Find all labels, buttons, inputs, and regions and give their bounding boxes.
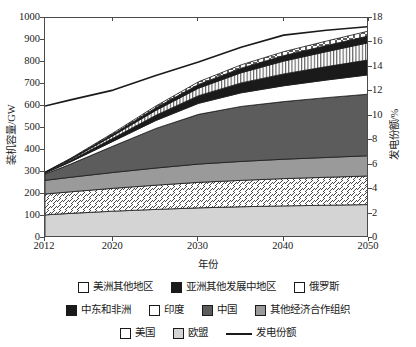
legend-item-俄罗斯[interactable]: 俄罗斯	[294, 282, 339, 293]
legend-swatch-icon	[78, 282, 89, 293]
legend-item-美国[interactable]: 美国	[120, 328, 155, 339]
legend-item-label: 印度	[164, 305, 184, 316]
y-axis-right-tickmark	[368, 90, 372, 91]
legend-item-亚洲其他发展中地区[interactable]: 亚洲其他发展中地区	[171, 282, 276, 293]
y-axis-left-tick-label: 1000	[19, 12, 40, 23]
y-axis-left-tickmark	[40, 193, 44, 194]
x-axis-title: 年份	[0, 256, 416, 271]
legend-item-label: 欧盟	[188, 328, 208, 339]
y-axis-left-tickmark	[40, 215, 44, 216]
legend-swatch-icon	[202, 305, 213, 316]
legend-line-swatch-icon	[226, 328, 252, 339]
legend-item-印度[interactable]: 印度	[149, 305, 184, 316]
x-axis-tickmark	[283, 17, 284, 21]
y-axis-right-tickmark	[368, 164, 372, 165]
chart-figure: 01002003004005006007008009001000 0246810…	[0, 0, 416, 347]
y-axis-right-tickmark	[368, 188, 372, 189]
legend-item-label: 其他经济合作组织	[270, 305, 350, 316]
legend-item-label: 发电份额	[256, 328, 296, 339]
legend-row: 中东和非洲印度中国其他经济合作组织	[0, 299, 416, 322]
y-axis-right-tick-label: 14	[372, 61, 383, 72]
y-axis-left-tick-label: 700	[24, 78, 40, 89]
legend-swatch-icon	[66, 305, 77, 316]
y-axis-right-tickmark	[368, 41, 372, 42]
y-axis-right-tick-label: 2	[372, 207, 377, 218]
legend-item-label: 美洲其他地区	[93, 282, 153, 293]
chart-legend: 美洲其他地区亚洲其他发展中地区俄罗斯中东和非洲印度中国其他经济合作组织美国欧盟发…	[0, 276, 416, 347]
legend-swatch-icon	[171, 282, 182, 293]
legend-item-美洲其他地区[interactable]: 美洲其他地区	[78, 282, 153, 293]
legend-row: 美国欧盟发电份额	[0, 322, 416, 345]
y-axis-left-tickmark	[40, 39, 44, 40]
y-axis-right-title: 发电份额/%	[386, 87, 401, 183]
legend-item-label: 亚洲其他发展中地区	[186, 282, 276, 293]
legend-swatch-icon	[149, 305, 160, 316]
x-axis-tickmark	[197, 237, 198, 241]
legend-swatch-icon	[294, 282, 305, 293]
y-axis-left-tickmark	[40, 61, 44, 62]
y-axis-left-tick-label: 300	[24, 166, 40, 177]
y-axis-left-tick-label: 400	[24, 144, 40, 155]
y-axis-right-tick-label: 18	[372, 12, 383, 23]
y-axis-right-tickmark	[368, 139, 372, 140]
legend-item-欧盟[interactable]: 欧盟	[173, 328, 208, 339]
stacked-area-svg	[45, 18, 368, 237]
legend-swatch-icon	[173, 328, 184, 339]
y-axis-left-tick-label: 100	[24, 210, 40, 221]
x-axis-tick-label: 2030	[187, 241, 208, 252]
y-axis-right-tick-label: 16	[372, 36, 383, 47]
y-axis-left-tick-label: 800	[24, 56, 40, 67]
legend-item-发电份额[interactable]: 发电份额	[226, 328, 296, 339]
y-axis-left-tick-label: 900	[24, 34, 40, 45]
legend-item-label: 中东和非洲	[81, 305, 131, 316]
y-axis-right-tickmark	[368, 66, 372, 67]
legend-row: 美洲其他地区亚洲其他发展中地区俄罗斯	[0, 276, 416, 299]
x-axis-tickmark	[44, 237, 45, 241]
x-axis-tickmark	[283, 237, 284, 241]
y-axis-left-title: 装机容量/GW	[3, 87, 18, 183]
x-axis-tickmark	[44, 17, 45, 21]
legend-item-label: 俄罗斯	[309, 282, 339, 293]
x-axis-tickmark	[112, 17, 113, 21]
x-axis-tick-label: 2040	[272, 241, 293, 252]
legend-item-label: 美国	[135, 328, 155, 339]
y-axis-right-tickmark	[368, 213, 372, 214]
plot-area	[44, 17, 368, 237]
legend-swatch-icon	[255, 305, 266, 316]
y-axis-left-tickmark	[40, 105, 44, 106]
legend-swatch-icon	[120, 328, 131, 339]
x-axis-tickmark	[368, 17, 369, 21]
x-axis-tick-label: 2012	[34, 241, 55, 252]
y-axis-left-tick-label: 500	[24, 122, 40, 133]
x-axis-tickmark	[368, 237, 369, 241]
legend-item-中国[interactable]: 中国	[202, 305, 237, 316]
y-axis-right-tick-label: 6	[372, 158, 377, 169]
y-axis-left-tickmark	[40, 171, 44, 172]
y-axis-right-tick-label: 4	[372, 183, 377, 194]
x-axis-tickmark	[112, 237, 113, 241]
legend-item-其他经济合作组织[interactable]: 其他经济合作组织	[255, 305, 350, 316]
y-axis-left-tickmark	[40, 83, 44, 84]
y-axis-right-tick-label: 12	[372, 85, 383, 96]
legend-item-label: 中国	[217, 305, 237, 316]
y-axis-left-tick-label: 200	[24, 188, 40, 199]
y-axis-left-tickmark	[40, 149, 44, 150]
x-axis-tick-label: 2020	[102, 241, 123, 252]
y-axis-right-tick-label: 8	[372, 134, 377, 145]
x-axis-tick-label: 2050	[358, 241, 379, 252]
y-axis-left-tickmark	[40, 127, 44, 128]
y-axis-right-tickmark	[368, 115, 372, 116]
legend-item-中东和非洲[interactable]: 中东和非洲	[66, 305, 131, 316]
y-axis-left-tick-label: 600	[24, 100, 40, 111]
y-axis-right-tick-label: 10	[372, 110, 383, 121]
x-axis-tickmark	[197, 17, 198, 21]
